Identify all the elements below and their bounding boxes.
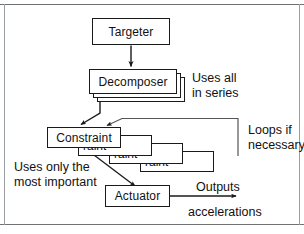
node-constraint-1[interactable]: Constraint (47, 127, 121, 148)
annotation-loops-line2: necessary (248, 138, 304, 153)
node-targeter[interactable]: Targeter (92, 18, 170, 45)
annotation-uses-only-most-important: Uses only the most important (14, 160, 97, 190)
node-actuator-label: Actuator (115, 190, 161, 202)
annotation-uses-all-line1: Uses all (192, 71, 239, 86)
annotation-uses-all-line2: in series (192, 86, 239, 101)
annotation-uses-only-line1: Uses only the (14, 160, 97, 175)
node-decomposer[interactable]: Decomposer (89, 69, 177, 94)
node-constraint-1-label: Constraint (56, 132, 112, 144)
edge-decomposer-to-constraint (81, 100, 100, 125)
node-decomposer-label: Decomposer (98, 76, 167, 88)
node-actuator[interactable]: Actuator (105, 185, 170, 207)
annotation-outputs-line1: Outputs (188, 180, 262, 195)
annotation-loops-if-necessary: Loops if necessary (248, 123, 304, 153)
annotation-loops-line1: Loops if (248, 123, 304, 138)
annotation-outputs-accelerations: Outputs accelerations (188, 180, 262, 220)
annotation-uses-only-line2: most important (14, 175, 97, 190)
node-targeter-label: Targeter (109, 26, 154, 38)
diagram-canvas: Targeter Decomposer raint raint raint Co… (0, 0, 304, 234)
annotation-uses-all: Uses all in series (192, 71, 239, 101)
annotation-outputs-line2: accelerations (188, 205, 262, 220)
